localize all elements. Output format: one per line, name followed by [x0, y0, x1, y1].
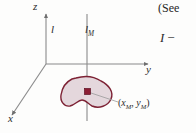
- y-axis-label: y: [146, 64, 151, 75]
- centroidal-axis-label-subscript: M: [88, 30, 94, 38]
- x-axis-label: x: [8, 113, 13, 124]
- formula-operator: −: [164, 30, 174, 45]
- side-formula-text: I−: [160, 31, 175, 44]
- centroid-coordinate-label: (xM, yM): [118, 98, 150, 111]
- reference-axis-label: l: [51, 24, 54, 35]
- figure-canvas: [0, 0, 196, 133]
- parallel-axis-theorem-figure: z y x l lM (xM, yM) (See I−: [0, 0, 196, 133]
- paren-close: ): [146, 97, 149, 108]
- z-axis-label: z: [33, 1, 37, 12]
- side-caption-text: (See: [158, 2, 179, 14]
- x-axis: [12, 64, 46, 115]
- centroid-dot: [85, 89, 91, 95]
- centroidal-axis-label: lM: [85, 24, 94, 38]
